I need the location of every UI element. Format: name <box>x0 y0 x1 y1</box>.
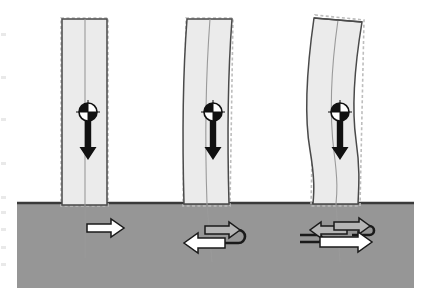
figure-canvas <box>0 0 431 306</box>
pile-deformation-figure <box>0 0 431 306</box>
scan-edge-mark <box>1 118 6 121</box>
scan-edge-mark <box>1 228 6 231</box>
scan-edge-mark <box>1 76 6 79</box>
scan-edge-mark <box>1 263 6 266</box>
scan-edge-mark <box>1 196 6 199</box>
scan-edge-mark <box>1 246 6 249</box>
scan-edge-mark <box>1 162 6 165</box>
scan-edge-mark <box>1 33 6 36</box>
scan-edge-mark <box>1 211 6 214</box>
